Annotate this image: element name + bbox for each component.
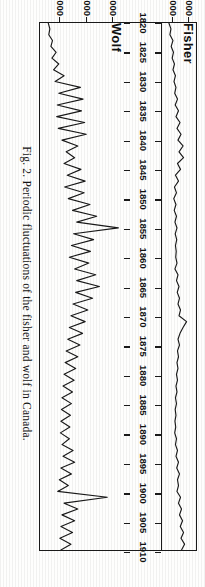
year-tick-label: 1900 bbox=[138, 483, 149, 504]
value-tick-mark bbox=[112, 17, 113, 22]
year-axis-strip: 1820182518301835184018451850185518601865… bbox=[124, 22, 161, 551]
year-tick-mark bbox=[124, 141, 130, 142]
year-tick-mark bbox=[155, 82, 161, 83]
value-tick-mark bbox=[59, 17, 60, 22]
year-tick-mark bbox=[124, 199, 130, 200]
series-label-fisher: Fisher bbox=[181, 23, 196, 64]
wolf-series-line bbox=[40, 23, 124, 550]
figure-caption: Fig. 2. Periodic fluctuations of the fis… bbox=[21, 0, 33, 587]
year-tick-label: 1885 bbox=[138, 394, 149, 415]
year-tick-mark bbox=[155, 288, 161, 289]
value-axis-fisher: 5,0008,000 bbox=[161, 0, 197, 22]
year-tick-mark bbox=[155, 405, 161, 406]
year-tick-mark bbox=[155, 464, 161, 465]
year-tick-mark bbox=[124, 229, 130, 230]
year-tick-label: 1880 bbox=[138, 365, 149, 386]
year-tick-mark bbox=[155, 52, 161, 53]
year-tick-label: 1865 bbox=[138, 277, 149, 298]
year-tick-label: 1835 bbox=[138, 101, 149, 122]
year-tick-mark bbox=[124, 376, 130, 377]
year-tick-mark bbox=[155, 258, 161, 259]
year-tick-mark bbox=[155, 552, 161, 553]
year-tick-label: 1890 bbox=[138, 424, 149, 445]
year-tick-mark bbox=[124, 82, 130, 83]
year-tick-label: 1895 bbox=[138, 453, 149, 474]
year-tick-mark bbox=[124, 170, 130, 171]
year-tick-mark bbox=[124, 464, 130, 465]
year-tick-label: 1870 bbox=[138, 306, 149, 327]
year-tick-mark bbox=[124, 23, 130, 24]
year-tick-label: 1905 bbox=[138, 512, 149, 533]
year-tick-label: 1910 bbox=[138, 541, 149, 562]
year-tick-label: 1830 bbox=[138, 71, 149, 92]
value-tick-label: 10,000 bbox=[81, 0, 92, 16]
year-tick-mark bbox=[155, 493, 161, 494]
value-tick-label: 8,000 bbox=[184, 0, 195, 16]
series-label-wolf: Wolf bbox=[109, 23, 124, 52]
year-tick-mark bbox=[155, 23, 161, 24]
year-tick-mark bbox=[124, 405, 130, 406]
year-tick-mark bbox=[124, 317, 130, 318]
panel-wolf: Wolf bbox=[39, 22, 124, 551]
year-tick-mark bbox=[124, 523, 130, 524]
value-tick-mark bbox=[86, 17, 87, 22]
year-tick-label: 1860 bbox=[138, 248, 149, 269]
year-tick-label: 1855 bbox=[138, 218, 149, 239]
year-tick-mark bbox=[155, 376, 161, 377]
value-tick-label: 5,000 bbox=[168, 0, 179, 16]
year-tick-mark bbox=[124, 258, 130, 259]
year-tick-mark bbox=[155, 229, 161, 230]
year-tick-mark bbox=[155, 523, 161, 524]
year-tick-mark bbox=[124, 52, 130, 53]
year-tick-mark bbox=[124, 552, 130, 553]
value-tick-mark bbox=[188, 17, 189, 22]
year-tick-mark bbox=[155, 141, 161, 142]
year-tick-label: 1825 bbox=[138, 42, 149, 63]
year-tick-mark bbox=[155, 170, 161, 171]
year-tick-label: 1840 bbox=[138, 130, 149, 151]
year-tick-mark bbox=[124, 288, 130, 289]
figure-plate: Fisher 182018251830183518401845185018551… bbox=[0, 0, 205, 587]
year-tick-label: 1850 bbox=[138, 189, 149, 210]
fisher-series-line bbox=[162, 23, 196, 550]
year-tick-mark bbox=[155, 111, 161, 112]
year-tick-label: 1845 bbox=[138, 159, 149, 180]
value-tick-label: 15,000 bbox=[108, 0, 119, 16]
panel-fisher: Fisher bbox=[161, 22, 197, 551]
year-tick-label: 1875 bbox=[138, 336, 149, 357]
value-tick-mark bbox=[172, 17, 173, 22]
year-tick-mark bbox=[155, 346, 161, 347]
year-tick-mark bbox=[124, 346, 130, 347]
year-tick-mark bbox=[124, 111, 130, 112]
figure-plate-wrapper: Fisher 182018251830183518401845185018551… bbox=[0, 0, 205, 587]
value-tick-label: 5,000 bbox=[55, 0, 66, 16]
year-tick-mark bbox=[155, 317, 161, 318]
year-tick-label: 1820 bbox=[138, 12, 149, 33]
value-axis-wolf: 5,00010,00015,000 bbox=[39, 0, 124, 22]
year-tick-mark bbox=[124, 434, 130, 435]
year-tick-mark bbox=[124, 493, 130, 494]
year-tick-mark bbox=[155, 434, 161, 435]
year-tick-mark bbox=[155, 199, 161, 200]
